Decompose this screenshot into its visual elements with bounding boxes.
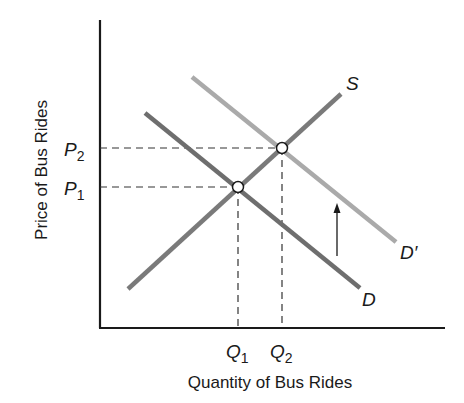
demand-curve <box>145 113 360 288</box>
y-axis-title: Price of Bus Rides <box>32 100 51 240</box>
q1-tick-label: Q1 <box>226 341 249 366</box>
equilibrium-point-new <box>277 143 288 154</box>
demand-shifted-label: D′ <box>400 242 419 263</box>
q2-tick-label: Q2 <box>270 341 293 366</box>
demand-label: D <box>362 289 376 310</box>
p2-tick-label: P2 <box>64 139 85 164</box>
p1-tick-label: P1 <box>64 178 85 203</box>
equilibrium-point-initial <box>233 182 244 193</box>
shift-arrow-icon <box>334 203 341 213</box>
demand-shifted-curve <box>192 77 396 242</box>
supply-demand-chart: S D D′ P2 P1 Q1 Q2 Quantity of Bus Rides… <box>0 0 464 403</box>
x-axis-title: Quantity of Bus Rides <box>188 373 352 392</box>
supply-label: S <box>346 73 359 94</box>
